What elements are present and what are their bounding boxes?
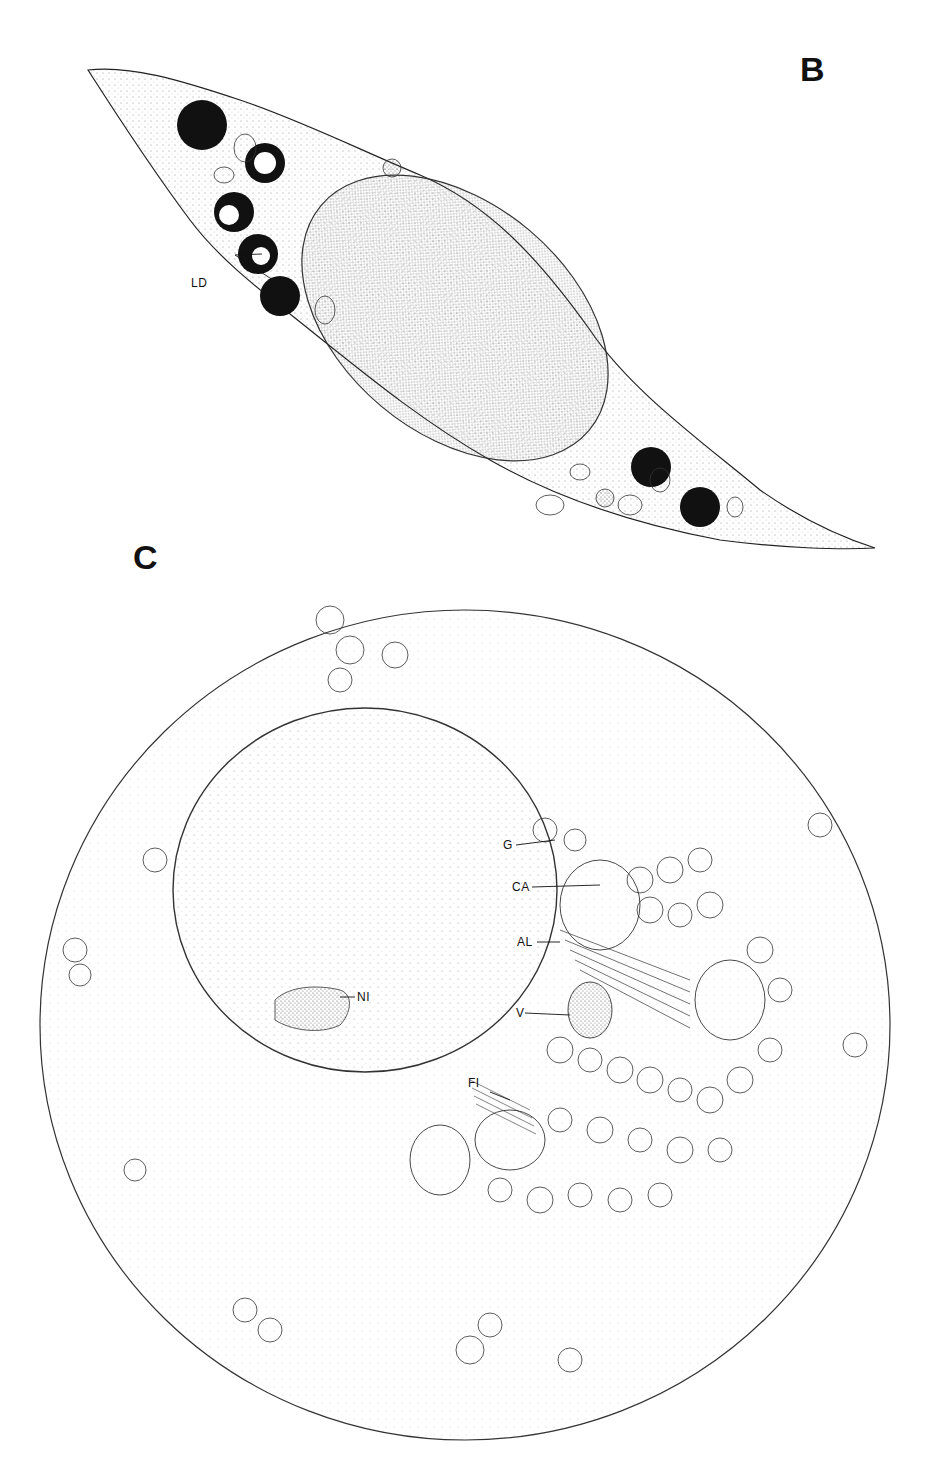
label-v: V [516,1006,525,1020]
nucleolus [275,987,349,1030]
label-ca: CA [512,880,530,894]
label-ld: LD [191,276,207,290]
label-al: AL [517,935,533,949]
panel-label-c: C [133,538,158,577]
lipid-droplet [177,100,227,150]
label-fi: FI [468,1076,480,1090]
cell-c [40,606,890,1440]
cell-b [88,69,875,549]
nucleus-c [173,708,557,1072]
panel-label-b: B [800,50,825,89]
label-g: G [503,838,513,852]
figure-canvas [0,0,932,1478]
label-ni: NI [357,990,370,1004]
